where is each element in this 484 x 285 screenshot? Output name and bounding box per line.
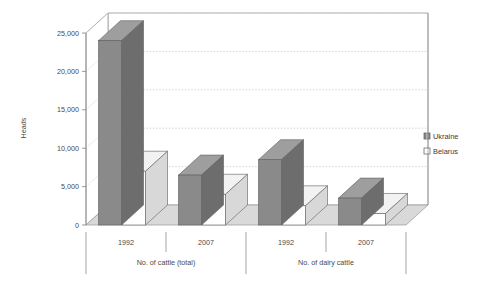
y-tick-label: 0 (75, 221, 79, 230)
x-group-label: No. of cattle (total) (137, 258, 196, 267)
y-axis-title: Heads (19, 117, 28, 138)
y-tick-label: 20,000 (57, 67, 79, 76)
y-tick-label: 5,000 (61, 182, 79, 191)
x-category-label: 1992 (118, 238, 134, 247)
y-tick-label: 25,000 (57, 29, 79, 38)
x-axis: 1992200719922007No. of cattle (total)No.… (86, 232, 406, 274)
y-tick-label: 15,000 (57, 105, 79, 114)
legend[interactable]: UkraineBelarus (424, 13, 458, 205)
y-tick-label: 10,000 (57, 144, 79, 153)
bar-ukraine (99, 21, 144, 225)
legend-item[interactable]: Belarus (424, 147, 458, 156)
bar-front-face (179, 175, 202, 225)
bar-chart-3d: 05,00010,00015,00020,00025,000Heads 1992… (0, 0, 484, 285)
legend-item[interactable]: Ukraine (424, 132, 458, 141)
legend-label: Ukraine (433, 132, 458, 141)
bar-side-face (122, 21, 144, 225)
legend-label: Belarus (433, 147, 458, 156)
chart-container: 05,00010,00015,00020,00025,000Heads 1992… (0, 0, 484, 285)
bar-front-face (339, 198, 362, 225)
bar-front-face (99, 41, 122, 225)
x-category-label: 2007 (358, 238, 374, 247)
x-category-label: 2007 (198, 238, 214, 247)
x-category-label: 1992 (278, 238, 294, 247)
bar-front-face (259, 160, 282, 225)
legend-swatch-belarus (424, 148, 430, 154)
x-group-label: No. of dairy cattle (298, 258, 354, 267)
y-axis: 05,00010,00015,00020,00025,000Heads (19, 29, 86, 230)
